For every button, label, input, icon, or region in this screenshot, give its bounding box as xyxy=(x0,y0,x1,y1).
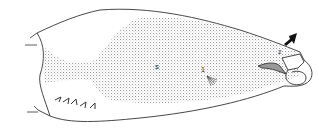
label-s: s xyxy=(155,62,159,71)
specimen-drawing xyxy=(0,0,319,135)
label-2: 2 xyxy=(278,49,281,55)
label-1: 1 xyxy=(201,66,205,73)
stippled-region xyxy=(43,17,300,103)
scratch-marks xyxy=(55,97,95,109)
arrow-icon xyxy=(284,33,297,46)
